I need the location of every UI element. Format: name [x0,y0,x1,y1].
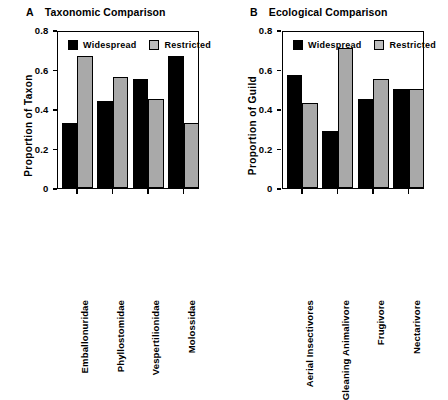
bar-group [287,32,318,188]
y-tick-label: 0.4 [259,105,277,115]
x-tick-mark [112,189,113,194]
panel-b-header: B Ecological Comparison [250,6,388,18]
panel-b-bars [283,32,423,188]
y-tick-mark [277,109,282,110]
panel-a-y-axis-ticks: 0.80.60.40.20 [0,31,57,189]
panel-b-letter: B [250,6,258,18]
x-tick-mark [76,189,77,194]
panel-a-x-axis-labels: EmballonuridaePhyllostomidaeVespertilion… [57,196,199,306]
bar-widespread [168,56,184,188]
bar-restricted [148,99,164,188]
x-tick-label: Molossidae [187,300,197,353]
bar-group [358,32,389,188]
x-tick-label: Aerial Insectivores [305,300,315,387]
x-tick-label: Gleaning Animalivore [341,300,351,400]
bar-widespread [97,101,113,188]
y-tick-mark [277,70,282,71]
bar-widespread [133,79,149,188]
panel-b-plot-area: Widespread Restricted [282,31,424,189]
bar-group [97,32,128,188]
panel-a: A Taxonomic Comparison Proportion of Tax… [0,0,224,315]
bar-widespread [62,123,78,188]
y-tick-label: 0.8 [35,26,53,36]
x-tick-label: Frugivore [376,300,386,345]
panel-a-letter: A [26,6,34,18]
panel-b-title: Ecological Comparison [269,6,388,18]
panel-a-plot-area: Widespread Restricted [57,31,199,189]
bar-restricted [302,103,318,188]
y-tick-label: 0 [267,184,276,194]
x-tick-label: Emballonuridae [80,300,90,373]
y-tick-mark [277,188,282,189]
bar-restricted [338,48,354,188]
x-tick-mark [183,189,184,194]
x-tick-label: Nectarivore [412,300,422,354]
x-tick-label: Phyllostomidae [116,300,126,372]
bar-group [62,32,93,188]
panel-b-x-axis-labels: Aerial InsectivoresGleaning AnimalivoreF… [282,196,424,306]
panel-b-y-axis-ticks: 0.80.60.40.20 [224,31,281,189]
panel-a-title: Taxonomic Comparison [45,6,166,18]
bar-widespread [287,75,303,188]
bar-restricted [409,89,425,188]
y-tick-label: 0.8 [259,26,277,36]
bar-group [393,32,424,188]
y-tick-label: 0.4 [35,105,53,115]
y-tick-mark [277,149,282,150]
bar-restricted [184,123,200,188]
bar-restricted [373,79,389,188]
bar-restricted [77,56,93,188]
y-tick-label: 0.2 [35,145,53,155]
panel-a-header: A Taxonomic Comparison [26,6,166,18]
y-tick-label: 0.6 [259,66,277,76]
x-tick-label: Vespertilionidae [151,300,161,375]
panel-b: B Ecological Comparison Proportion of Gu… [224,0,448,315]
y-tick-label: 0 [43,184,52,194]
panel-a-bars [58,32,198,188]
bar-restricted [113,77,129,188]
bar-group [322,32,353,188]
bar-widespread [322,131,338,188]
y-tick-label: 0.2 [259,145,277,155]
x-tick-mark [337,189,338,194]
x-tick-mark [301,189,302,194]
x-tick-mark [372,189,373,194]
y-tick-label: 0.6 [35,66,53,76]
x-tick-mark [147,189,148,194]
bar-group [168,32,199,188]
x-tick-mark [408,189,409,194]
y-tick-mark [277,30,282,31]
bar-group [133,32,164,188]
bar-widespread [358,99,374,188]
bar-widespread [393,89,409,188]
